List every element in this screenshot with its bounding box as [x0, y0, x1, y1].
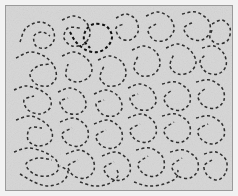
- contour-c07: [210, 20, 231, 44]
- contour-c01: [20, 22, 54, 48]
- contour-c22: [94, 120, 122, 148]
- contour-c26: [14, 148, 59, 176]
- contour-c14: [14, 86, 51, 114]
- contour-c29: [136, 148, 164, 177]
- contour-c24: [162, 114, 190, 143]
- contour-c23: [128, 114, 156, 142]
- contour-c34: [134, 170, 178, 186]
- contour-c11: [132, 46, 160, 76]
- contour-c21: [60, 118, 88, 146]
- contour-c04: [116, 14, 139, 40]
- contour-c20: [16, 116, 52, 146]
- stimulus-panel: [5, 5, 233, 191]
- contour-c31: [204, 152, 227, 180]
- contour-c28: [102, 152, 130, 180]
- contour-c09: [62, 52, 92, 82]
- contour-c06: [182, 12, 210, 41]
- contour-c25: [196, 116, 225, 144]
- contour-c32: [20, 166, 68, 186]
- contour-c30: [170, 150, 198, 179]
- contour-c12: [166, 44, 196, 74]
- contour-field: [6, 6, 233, 191]
- contour-c08: [16, 52, 56, 86]
- contour-c33: [80, 168, 118, 186]
- contour-c10: [98, 56, 126, 86]
- contour-c17: [128, 84, 156, 110]
- contour-c18: [162, 82, 190, 111]
- contour-c15: [58, 88, 86, 114]
- stimulus-root: [0, 0, 238, 196]
- contour-c27: [66, 150, 94, 178]
- contour-c03: [70, 24, 112, 52]
- contour-c05: [146, 12, 174, 41]
- contour-c19: [196, 80, 224, 109]
- contour-c13: [200, 46, 226, 75]
- contour-c16: [94, 90, 122, 116]
